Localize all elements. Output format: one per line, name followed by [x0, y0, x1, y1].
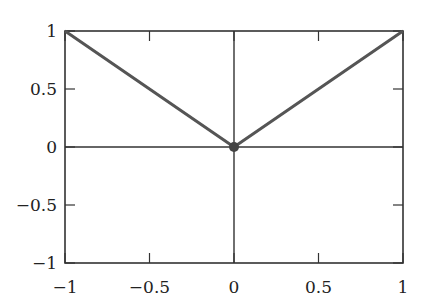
x-tick-label: 0	[229, 277, 240, 297]
tick-labels: −1−0.500.51−1−0.500.51	[16, 21, 409, 297]
origin-point-marker	[229, 142, 239, 152]
y-tick-label: −0.5	[16, 195, 57, 215]
y-tick-label: 0.5	[30, 79, 57, 99]
x-tick-label: 1	[398, 277, 409, 297]
x-tick-label: 0.5	[305, 277, 332, 297]
y-tick-label: 1	[46, 21, 57, 41]
y-tick-label: −1	[32, 253, 57, 273]
x-tick-label: −1	[52, 277, 77, 297]
chart: −1−0.500.51−1−0.500.51	[0, 0, 421, 304]
y-tick-label: 0	[46, 137, 57, 157]
x-tick-label: −0.5	[129, 277, 170, 297]
